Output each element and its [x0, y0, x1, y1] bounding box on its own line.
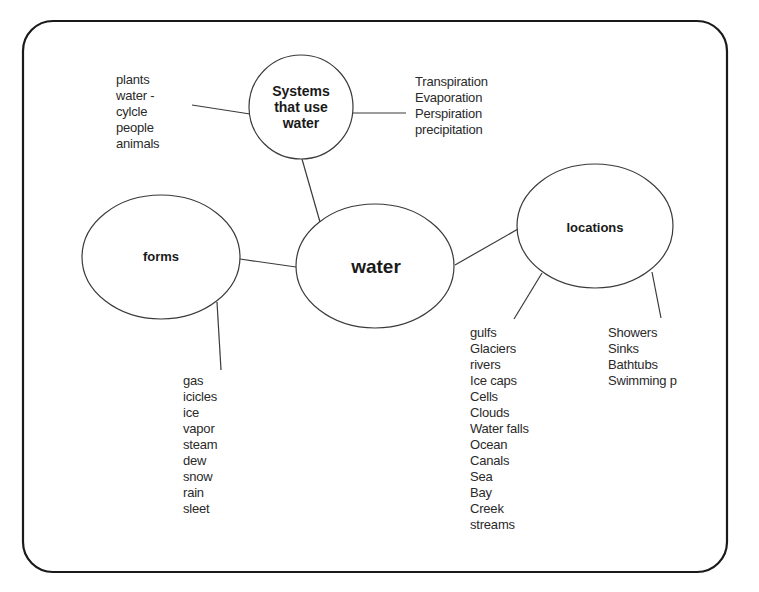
edge-locations-natural-list — [514, 273, 542, 319]
list-item: gas — [183, 373, 217, 389]
list-item: gulfs — [470, 325, 529, 341]
list-item: Swimming p — [608, 373, 688, 389]
node-systems-label-line-1: Systems — [272, 83, 330, 99]
node-locations: locations — [535, 216, 655, 238]
node-water: water — [316, 252, 436, 282]
list-item: streams — [470, 517, 529, 533]
concept-map-canvas — [0, 0, 759, 592]
list-item: Sinks — [608, 341, 688, 357]
node-water-label: water — [351, 256, 401, 278]
list-item: water - — [116, 88, 159, 104]
list-item: precipitation — [415, 122, 488, 138]
list-item: Canals — [470, 453, 529, 469]
list-item: Clouds — [470, 405, 529, 421]
list-item: Ice caps — [470, 373, 529, 389]
list-item: snow — [183, 469, 217, 485]
node-systems-label-line-2: that use — [274, 99, 328, 115]
edge-forms-water — [240, 259, 296, 267]
edge-systems-left-list — [192, 105, 250, 114]
edge-locations-household-list — [652, 272, 661, 318]
node-systems: Systems that use water — [251, 60, 351, 154]
list-item: Water falls — [470, 421, 529, 437]
node-forms: forms — [101, 244, 221, 268]
list-item: steam — [183, 437, 217, 453]
list-item: vapor — [183, 421, 217, 437]
list-item: Evaporation — [415, 90, 488, 106]
list-item: Creek — [470, 501, 529, 517]
node-forms-label: forms — [143, 249, 179, 264]
list-item: dew — [183, 453, 217, 469]
list-item: sleet — [183, 501, 217, 517]
node-locations-label: locations — [566, 220, 623, 235]
list-item: Ocean — [470, 437, 529, 453]
list-item: rivers — [470, 357, 529, 373]
list-item: plants — [116, 72, 159, 88]
node-systems-label-line-3: water — [283, 115, 320, 131]
forms-list: gas icicles ice vapor steam dew snow rai… — [183, 373, 217, 517]
list-item: Perspiration — [415, 106, 488, 122]
list-item: animals — [116, 136, 159, 152]
edge-water-locations — [455, 229, 518, 265]
list-item: Bathtubs — [608, 357, 688, 373]
list-item: rain — [183, 485, 217, 501]
edge-systems-water — [302, 159, 320, 222]
list-item: people — [116, 120, 159, 136]
list-item: cylcle — [116, 104, 159, 120]
list-item: icicles — [183, 389, 217, 405]
systems-right-list: Transpiration Evaporation Perspiration p… — [415, 74, 488, 138]
list-item: ice — [183, 405, 217, 421]
edge-forms-list — [217, 302, 221, 370]
list-item: Transpiration — [415, 74, 488, 90]
locations-household-list: Showers Sinks Bathtubs Swimming p — [608, 325, 688, 389]
list-item: Bay — [470, 485, 529, 501]
list-item: Showers — [608, 325, 688, 341]
list-item: Sea — [470, 469, 529, 485]
list-item: Cells — [470, 389, 529, 405]
list-item: Glaciers — [470, 341, 529, 357]
systems-left-list: plants water - cylcle people animals — [116, 72, 159, 152]
locations-natural-list: gulfs Glaciers rivers Ice caps Cells Clo… — [470, 325, 529, 533]
